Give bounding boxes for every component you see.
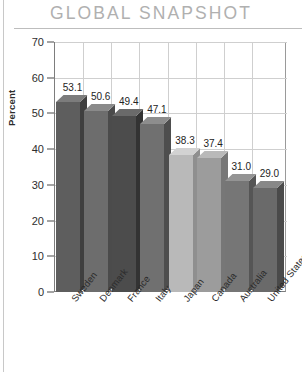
y-axis-tick [47,256,54,257]
y-axis-tick [47,113,54,114]
y-axis-tick-label: 20 [10,215,44,227]
y-axis-tick-label: 0 [10,286,44,298]
bar-sweden[interactable] [56,95,80,292]
bar-front-face [169,155,193,292]
bar-denmark[interactable] [84,104,108,292]
bar-value-label: 50.6 [85,91,116,102]
y-axis-tick-label: 70 [10,36,44,48]
page-title: GLOBAL SNAPSHOT [10,3,292,24]
y-axis-tick [47,42,54,43]
bar-value-label: 37.4 [198,138,229,149]
bar-value-label: 49.4 [113,96,144,107]
bar-value-label: 47.1 [141,104,172,115]
bar-italy[interactable] [140,117,164,292]
title-divider [14,28,302,29]
bar-chart-figure: Percent 010203040506070 53.150.649.447.1… [0,34,302,372]
y-axis-tick-label: 30 [10,179,44,191]
bar-france[interactable] [112,109,136,292]
bar-value-label: 29.0 [254,168,285,179]
bar-value-label: 53.1 [57,82,88,93]
bar-value-label: 31.0 [226,161,257,172]
y-axis-tick [47,292,54,293]
y-axis-tick-label: 60 [10,72,44,84]
bar-front-face [56,102,80,292]
y-axis-tick-label: 50 [10,107,44,119]
bar-front-face [112,116,136,292]
y-axis-tick [47,184,54,185]
bar-front-face [84,111,108,292]
y-axis-tick-label: 10 [10,250,44,262]
bar-front-face [197,158,221,292]
y-axis-tick [47,220,54,221]
y-axis-tick-label: 40 [10,143,44,155]
bar-japan[interactable] [169,148,193,292]
y-axis-tick [47,149,54,150]
y-axis-tick [47,77,54,78]
bar-front-face [140,124,164,292]
bar-canada[interactable] [197,151,221,292]
chart-header: GLOBAL SNAPSHOT [10,0,302,34]
bar-value-label: 38.3 [170,135,201,146]
